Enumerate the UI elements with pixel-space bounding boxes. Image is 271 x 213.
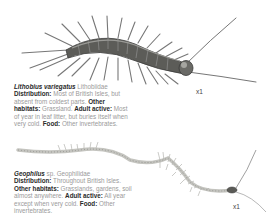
- family-name: Lithobiidae: [77, 83, 107, 90]
- species-suffix: sp.: [47, 170, 55, 177]
- species-entry-lithobius: Lithobius variegatus Lithobiidae Distrib…: [14, 83, 132, 127]
- other-habitats-text: Grassland.: [42, 105, 72, 112]
- species-name: Geophilus: [14, 170, 45, 177]
- food-label: Food: [43, 120, 58, 127]
- scale-label: x1: [196, 88, 203, 95]
- scale-label: x1: [233, 203, 240, 210]
- other-habitats-label: Other habitats: [14, 185, 57, 192]
- distribution-label: Distribution: [14, 177, 49, 184]
- food-label: Food: [80, 200, 95, 207]
- food-text: Other invertebrates.: [62, 120, 118, 127]
- adult-active-label: Adult active: [74, 105, 110, 112]
- species-entry-geophilus: Geophilus sp. Geophilidae Distribution: …: [14, 170, 132, 213]
- distribution-label: Distribution: [14, 90, 49, 97]
- species-name: Lithobius variegatus: [14, 83, 76, 90]
- adult-active-label: Adult active: [65, 192, 101, 199]
- family-name: Geophilidae: [57, 170, 91, 177]
- distribution-text: Throughout British Isles.: [53, 177, 121, 184]
